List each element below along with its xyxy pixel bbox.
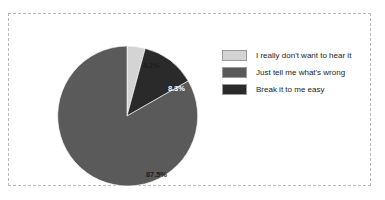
legend-swatch-icon [222, 50, 247, 61]
pie-label-small: 4.2% [143, 62, 160, 70]
legend-item-label: I really don't want to hear it [256, 52, 351, 60]
pie-chart: 4.2% 8.3% 87.5% [49, 38, 205, 194]
pie-label-large: 87.5% [146, 171, 167, 179]
legend-swatch-icon [222, 84, 247, 95]
legend-item[interactable]: I really don't want to hear it [222, 47, 382, 64]
legend: I really don't want to hear it Just tell… [222, 47, 382, 98]
legend-item-label: Break it to me easy [256, 86, 324, 94]
legend-item-label: Just tell me what's wrong [256, 69, 345, 77]
pie-svg [49, 38, 205, 194]
legend-item[interactable]: Just tell me what's wrong [222, 64, 382, 81]
chart-frame: 4.2% 8.3% 87.5% I really don't want to h… [8, 13, 371, 186]
pie-label-medium: 8.3% [168, 85, 185, 93]
legend-item[interactable]: Break it to me easy [222, 81, 382, 98]
legend-swatch-icon [222, 67, 247, 78]
